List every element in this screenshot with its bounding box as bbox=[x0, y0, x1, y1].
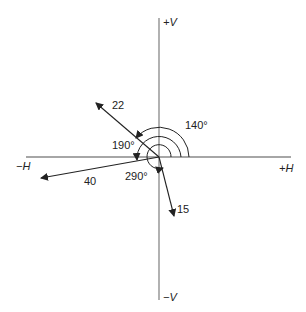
phasor-diagram bbox=[0, 0, 306, 312]
vector-15 bbox=[159, 157, 174, 216]
vector-label-15: 15 bbox=[177, 204, 189, 215]
axis-label-minus-h: −H bbox=[16, 161, 30, 172]
angle-label-140: 140° bbox=[185, 120, 208, 131]
vector-label-40: 40 bbox=[84, 176, 96, 187]
axis-label-plus-h: +H bbox=[279, 163, 293, 174]
angle-label-190: 190° bbox=[112, 140, 135, 151]
vector-label-22: 22 bbox=[112, 100, 124, 111]
axis-label-plus-v: +V bbox=[163, 17, 177, 28]
axis-label-minus-v: −V bbox=[163, 292, 177, 303]
angle-label-290: 290° bbox=[125, 171, 148, 182]
